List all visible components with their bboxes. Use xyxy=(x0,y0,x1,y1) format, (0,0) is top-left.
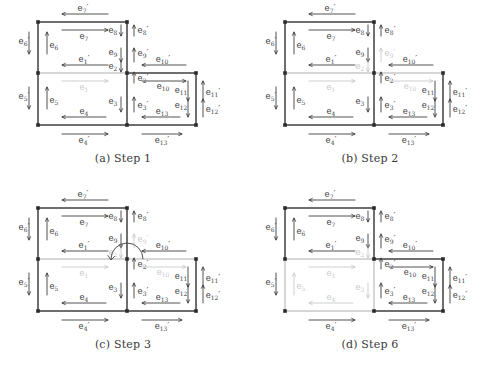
arrow-e12p xyxy=(201,99,204,117)
label-e7p: e7′ xyxy=(78,189,89,200)
arrow-e4p xyxy=(309,318,355,321)
label-e2p: e2′ xyxy=(385,259,396,270)
arrow-e11p xyxy=(201,267,204,287)
vertex-bottom-right xyxy=(441,309,445,313)
label-e1: e1 xyxy=(80,82,89,93)
label-e8: e8 xyxy=(109,211,118,222)
label-e4p: e4′ xyxy=(79,321,90,332)
label-e2p: e2′ xyxy=(138,73,149,84)
vertex-bottom-left xyxy=(36,123,40,127)
label-e8p: e8′ xyxy=(138,211,149,222)
arrow-e1 xyxy=(309,265,355,268)
label-e1p: e1′ xyxy=(79,240,90,251)
arrow-e12p xyxy=(448,285,451,303)
vertex-top-left xyxy=(283,206,287,210)
arrow-e8 xyxy=(366,25,369,36)
label-e10: e10 xyxy=(404,267,417,278)
arrow-e12p xyxy=(448,99,451,117)
arrow-e8 xyxy=(119,25,122,36)
label-e6: e6 xyxy=(50,40,59,51)
vertex-mid-left xyxy=(283,71,287,75)
vertex-bottom-center xyxy=(125,123,129,127)
vertex-mid-right xyxy=(194,257,198,261)
panel-b-drawing: e7′e7e6′e6e8e8′e9e9′e1′e1e2e2′e10′e10e5′… xyxy=(247,0,493,160)
panel-c-caption: (c) Step 3 xyxy=(0,338,246,351)
panel-a-drawing: e7′e7e6′e6e8e8′e9e9′e1′e1e2e2′e10′e10e5′… xyxy=(0,0,246,160)
arrow-e8p xyxy=(379,25,382,36)
label-e9: e9 xyxy=(109,233,118,244)
label-e1: e1 xyxy=(327,82,336,93)
label-e6p: e6′ xyxy=(19,36,30,47)
label-e10p: e10′ xyxy=(156,240,171,251)
arrow-e7 xyxy=(62,214,108,217)
arrow-e2 xyxy=(366,61,369,72)
arrow-e9p xyxy=(132,48,135,62)
label-e10p: e10′ xyxy=(403,54,418,65)
label-e8: e8 xyxy=(356,211,365,222)
figure-four-step-diagram: e7′e7e6′e6e8e8′e9e9′e1′e1e2e2′e10′e10e5′… xyxy=(0,0,493,373)
label-e8p: e8′ xyxy=(385,25,396,36)
vertex-mid-left xyxy=(283,257,287,261)
arrow-e5 xyxy=(292,87,295,109)
label-e2p: e2′ xyxy=(385,73,396,84)
arrow-e5 xyxy=(45,87,48,109)
label-e10p: e10′ xyxy=(403,240,418,251)
label-e6: e6 xyxy=(297,40,306,51)
vertex-top-left xyxy=(283,20,287,24)
arrow-e9 xyxy=(366,234,369,248)
label-e4: e4 xyxy=(80,106,89,117)
arrow-e2p xyxy=(132,258,135,269)
label-e13: e13 xyxy=(156,106,169,117)
label-e1p: e1′ xyxy=(79,54,90,65)
label-e6p: e6′ xyxy=(266,222,277,233)
label-e10: e10 xyxy=(157,81,170,92)
arrow-e8p xyxy=(132,25,135,36)
label-e2p: e2′ xyxy=(138,259,149,270)
vertex-top-left xyxy=(36,206,40,210)
vertex-bottom-left xyxy=(283,123,287,127)
label-e5: e5 xyxy=(50,281,59,292)
label-e9p: e9′ xyxy=(138,234,149,245)
label-e9: e9 xyxy=(356,47,365,58)
label-e3: e3 xyxy=(109,96,118,107)
arrow-e10 xyxy=(142,79,186,82)
label-e12: e12 xyxy=(175,286,188,297)
label-e11p: e11′ xyxy=(206,273,221,284)
vertex-mid-left xyxy=(36,71,40,75)
vertex-mid-right xyxy=(194,71,198,75)
panel-d-caption: (d) Step 6 xyxy=(247,338,493,351)
arrow-e2 xyxy=(119,61,122,72)
label-e3: e3 xyxy=(356,96,365,107)
label-e13p: e13′ xyxy=(402,321,417,332)
label-e2: e2 xyxy=(109,247,118,258)
arrow-e2p xyxy=(132,72,135,83)
arrow-e3p xyxy=(132,97,135,112)
label-e8: e8 xyxy=(356,25,365,36)
label-e8: e8 xyxy=(109,25,118,36)
panel-d: e7′e7e6′e6e8e8′e9e9′e1′e1e2e2′e10′e10e5′… xyxy=(247,186,493,372)
label-e7: e7 xyxy=(80,217,89,228)
label-e12p: e12′ xyxy=(453,104,468,115)
arrow-e3p xyxy=(379,97,382,112)
label-e11: e11 xyxy=(422,271,435,282)
label-e6: e6 xyxy=(297,226,306,237)
label-e12: e12 xyxy=(175,100,188,111)
arrow-e12p xyxy=(201,285,204,303)
label-e9p: e9′ xyxy=(385,48,396,59)
label-e4p: e4′ xyxy=(326,135,337,146)
label-e11: e11 xyxy=(175,271,188,282)
label-e4: e4 xyxy=(80,292,89,303)
arrow-e11p xyxy=(448,81,451,101)
panel-a-caption: (a) Step 1 xyxy=(0,152,246,165)
panel-c: e7′e7e6′e6e8e8′e9e9′e1′e1e2e2′e10′e10e5′… xyxy=(0,186,246,372)
vertex-top-center xyxy=(125,20,129,24)
arrow-e3 xyxy=(119,97,122,112)
label-e13p: e13′ xyxy=(402,135,417,146)
vertex-bottom-right xyxy=(194,123,198,127)
arrow-e9p xyxy=(379,48,382,62)
arrow-e1 xyxy=(62,79,108,82)
arrow-e9 xyxy=(119,48,122,62)
panel-b-caption: (b) Step 2 xyxy=(247,152,493,165)
vertex-mid-right xyxy=(441,257,445,261)
arrow-e7 xyxy=(309,214,355,217)
